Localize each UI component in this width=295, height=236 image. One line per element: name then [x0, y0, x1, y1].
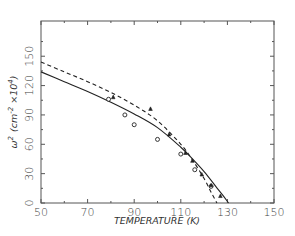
- svg-text:ω2(cm-2 ×104): ω2(cm-2 ×104): [7, 76, 19, 149]
- svg-text:150: 150: [23, 46, 36, 67]
- circle-marker: [132, 123, 136, 127]
- svg-text:90: 90: [23, 108, 36, 122]
- circle-marker: [156, 137, 160, 141]
- plot-frame: [41, 21, 274, 203]
- svg-text:30: 30: [23, 167, 36, 181]
- data-markers: [107, 95, 223, 197]
- y-axis-title: ω2(cm-2 ×104): [7, 76, 19, 149]
- chart: 507090110130150 0306090120150 TEMPERATUR…: [0, 0, 295, 236]
- svg-text:0: 0: [23, 200, 36, 207]
- circle-marker: [123, 113, 127, 117]
- circle-marker: [193, 168, 197, 172]
- circle-marker: [107, 97, 111, 101]
- triangle-marker: [111, 95, 115, 99]
- circle-marker: [179, 152, 183, 156]
- fit-curves: [41, 62, 229, 203]
- svg-text:150: 150: [264, 206, 285, 219]
- svg-text:50: 50: [34, 206, 48, 219]
- svg-text:70: 70: [81, 206, 95, 219]
- svg-text:130: 130: [217, 206, 238, 219]
- triangle-marker: [149, 107, 153, 111]
- solid-fit-curve: [41, 72, 229, 203]
- x-axis-title: TEMPERATURE (K): [114, 215, 200, 226]
- svg-text:120: 120: [23, 75, 36, 96]
- axis-ticks: [41, 21, 274, 203]
- svg-text:60: 60: [23, 137, 36, 151]
- y-tick-labels: 0306090120150: [23, 46, 36, 207]
